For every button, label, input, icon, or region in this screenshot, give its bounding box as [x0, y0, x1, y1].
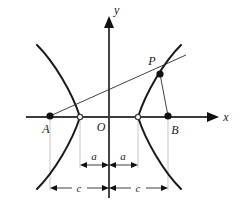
point-A-marker [46, 112, 53, 119]
dimension-c-left-arrow-start [50, 185, 57, 191]
origin-label: O [97, 120, 106, 134]
x-axis-label: x [222, 110, 229, 124]
hyperbola-diagram: y x O A B P a a c c [0, 0, 242, 211]
dimension-a-left-arrow-end [102, 162, 109, 168]
point-V1-marker [77, 114, 82, 119]
point-V2-marker [135, 114, 140, 119]
y-axis-arrowhead [104, 16, 114, 28]
dimension-c-left: c [50, 182, 109, 194]
dimension-a-left: a [80, 150, 109, 168]
segment-P-to-B [160, 74, 168, 116]
dimension-c-right-arrow-start [109, 185, 116, 191]
dimension-c-right: c [109, 182, 168, 194]
dimension-a-right-label: a [120, 150, 126, 162]
dimension-a-left-arrow-start [80, 162, 87, 168]
dimension-c-right-arrow-end [161, 185, 168, 191]
focal-rays [50, 55, 186, 116]
x-axis-arrowhead [207, 112, 219, 122]
point-P-label: P [147, 54, 156, 68]
dimension-c-right-label: c [136, 182, 141, 194]
dimension-a-right: a [109, 150, 138, 168]
dimension-a-right-arrow-start [109, 162, 116, 168]
point-B-label: B [171, 123, 179, 137]
dimension-a-left-label: a [91, 150, 97, 162]
segment-A-to-P-extended [50, 55, 186, 116]
axes [26, 16, 219, 198]
dimension-a-right-arrow-end [131, 162, 138, 168]
dimension-c-left-arrow-end [102, 185, 109, 191]
y-axis-label: y [113, 3, 120, 17]
point-A-label: A [41, 122, 50, 136]
point-B-marker [164, 112, 171, 119]
point-P-marker [156, 70, 163, 77]
dimension-c-left-label: c [77, 182, 82, 194]
